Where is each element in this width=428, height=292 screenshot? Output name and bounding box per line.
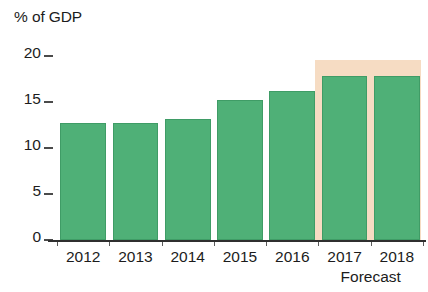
y-tick-mark [44,101,53,103]
y-tick-mark [44,193,53,195]
y-tick-label: 20 [24,45,41,61]
chart-axis-title: % of GDP [14,8,82,26]
bar-2016 [269,91,315,240]
bar-2012 [60,123,106,240]
x-tick-label-2014: 2014 [162,248,214,266]
x-tick-label-2017: 2017 [318,248,370,266]
x-tick-label-2016: 2016 [266,248,318,266]
y-tick-label: 0 [32,229,41,245]
y-tick-label: 15 [24,91,41,107]
x-tick-mark-2013 [109,242,110,246]
bar-2015 [217,100,263,240]
forecast-annotation-label: Forecast [318,268,423,286]
x-tick-mark-2015 [214,242,215,246]
x-tick-label-2012: 2012 [57,248,109,266]
x-tick-mark-2014 [162,242,163,246]
bar-2018 [374,76,420,240]
bar-2014 [165,119,211,240]
x-tick-mark-2016 [266,242,267,246]
y-tick-label: 5 [32,183,41,199]
x-tick-mark-end [423,242,424,246]
x-tick-label-2013: 2013 [109,248,161,266]
x-tick-mark-2012 [57,242,58,246]
y-tick-mark [44,55,53,57]
x-tick-label-2018: 2018 [371,248,423,266]
bar-2013 [113,123,159,240]
x-tick-mark-2018 [371,242,372,246]
y-tick-mark [44,147,53,149]
x-axis-line [48,240,426,242]
x-tick-label-2015: 2015 [214,248,266,266]
bar-2017 [322,76,368,240]
plot-area [57,50,423,240]
y-tick-label: 10 [24,137,41,153]
x-tick-mark-2017 [318,242,319,246]
bar-chart: % of GDP 05101520 2012201320142015201620… [0,0,428,292]
